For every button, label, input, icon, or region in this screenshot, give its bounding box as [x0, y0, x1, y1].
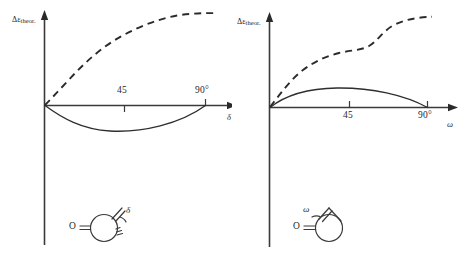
- x-axis-arrowhead: [448, 104, 458, 111]
- dashed-curve: [270, 17, 432, 107]
- angle-arc-delta: [120, 217, 126, 222]
- solid-curve: [270, 88, 428, 108]
- cyclohexanone-ring: [91, 215, 118, 242]
- molecule-angle-label-omega: ω: [303, 205, 309, 214]
- x-tick-label-45: 45: [117, 86, 127, 96]
- molecule-angle-label-delta: δ: [126, 206, 130, 215]
- chart-panel-delta: Δεtheor. 45 90° δ O δ: [0, 0, 232, 256]
- x-tick-label-45: 45: [343, 111, 353, 121]
- y-axis-symbol: Δε: [237, 17, 246, 26]
- stereo-hash-3: [117, 234, 123, 236]
- substituent-bond-b: [323, 211, 333, 222]
- y-axis-arrowhead: [41, 10, 48, 20]
- omega-plot-svg: [233, 0, 465, 256]
- x-axis-arrowhead: [227, 102, 232, 109]
- y-axis-subscript: theor.: [21, 17, 36, 24]
- molecule-oxygen-label: O: [69, 222, 76, 232]
- substituent-bond-b: [116, 211, 126, 222]
- y-axis-label: Δεtheor.: [237, 18, 261, 26]
- delta-plot-svg: [0, 0, 232, 256]
- chart-panel-omega: Δεtheor. 45 90° ω O ω: [233, 0, 465, 256]
- molecule-diagram-omega: [304, 208, 343, 242]
- angle-arc-omega: [312, 216, 320, 217]
- y-axis-label: Δεtheor.: [12, 16, 36, 24]
- figure-container: Δεtheor. 45 90° δ O δ: [0, 0, 465, 256]
- x-axis-variable-label: δ: [227, 113, 231, 122]
- y-axis-arrowhead: [266, 12, 273, 22]
- solid-curve: [45, 106, 206, 132]
- x-tick-label-90: 90°: [418, 111, 432, 121]
- y-axis-subscript: theor.: [246, 19, 261, 26]
- substituent-bond-a: [319, 208, 329, 219]
- dashed-curve: [45, 13, 215, 105]
- x-axis-variable-label: ω: [447, 120, 453, 129]
- molecule-oxygen-label: O: [293, 222, 300, 232]
- x-tick-label-90: 90°: [195, 86, 209, 96]
- y-axis-symbol: Δε: [12, 15, 21, 24]
- molecule-diagram-delta: [80, 208, 126, 242]
- stereo-hash-1: [116, 228, 120, 230]
